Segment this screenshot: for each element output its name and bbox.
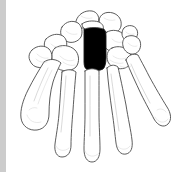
metacarpal-4 [107, 65, 132, 154]
metacarpal-5 [126, 54, 171, 126]
hand-skeleton-illustration: Line drawing of the bones of a hand view… [0, 0, 183, 180]
carpal-bone-above-highlight [82, 21, 103, 29]
carpal-bone-right-lateral [123, 36, 141, 55]
metacarpal-1-thumb [21, 59, 61, 130]
metacarpal-group [21, 54, 171, 162]
metacarpal-3 [84, 69, 100, 162]
highlighted-capitate-bone [84, 27, 106, 71]
figure-container: Line drawing of the bones of a hand view… [0, 0, 183, 180]
